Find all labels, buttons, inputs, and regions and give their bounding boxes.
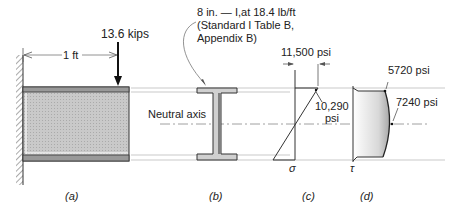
load-label: 13.6 kips [101, 28, 149, 41]
span-label: 1 ft [63, 49, 78, 62]
caption-d: (d) [360, 190, 373, 203]
section-note-line3: Appendix B) [197, 32, 257, 45]
flange-bending-stress-unit: psi [325, 112, 339, 125]
load-arrow [114, 42, 122, 86]
neutral-axis-label: Neutral axis [148, 108, 206, 121]
flange-shear-label: 5720 psi [388, 64, 430, 77]
fixed-wall-support [16, 55, 23, 185]
caption-b: (b) [209, 190, 222, 203]
section-note-line1: 8 in. — I,at 18.4 lb/ft [197, 6, 295, 19]
section-note-line2: (Standard I Table B, [197, 19, 294, 32]
caption-a: (a) [65, 190, 78, 203]
cantilever-beam [23, 87, 129, 161]
max-shear-label: 7240 psi [396, 96, 438, 109]
caption-c: (c) [302, 190, 315, 203]
tau-symbol: τ [350, 162, 354, 175]
sigma-symbol: σ [289, 162, 296, 175]
max-bending-stress-label: 11,500 psi [281, 46, 331, 59]
shear-stress-diagram [353, 82, 398, 162]
